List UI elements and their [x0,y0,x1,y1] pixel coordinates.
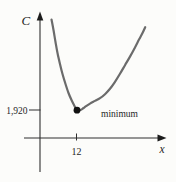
x-axis-label: x [159,143,166,155]
x-tick-label: 12 [72,146,82,157]
y-axis-arrow-icon [37,12,44,21]
x-axis-arrow-icon [158,135,167,142]
y-tick-label: 1,920 [6,106,28,116]
y-axis-label: C [22,13,31,28]
cost-curve-chart: C x 1,920 12 minimum [0,0,176,182]
cost-curve-figure: C x 1,920 12 minimum [0,0,176,182]
minimum-point-dot [74,107,81,114]
cost-curve [52,20,146,111]
minimum-annotation: minimum [101,109,139,119]
